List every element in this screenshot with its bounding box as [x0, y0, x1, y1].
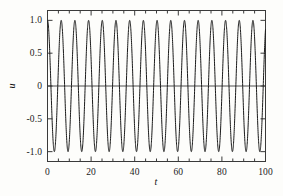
y-axis-title: u: [6, 84, 17, 89]
x-tick-label: 80: [217, 167, 227, 177]
x-tick-label: 60: [173, 167, 183, 177]
y-tick-label: -0.5: [18, 114, 42, 124]
y-tick-label: -1.0: [18, 147, 42, 157]
y-tick-label: 0.5: [18, 48, 42, 58]
figure-panel: 020406080100 -1.0-0.500.51.0 t u: [0, 0, 283, 196]
y-tick-label: 1.0: [18, 15, 42, 25]
x-tick-label: 40: [130, 167, 140, 177]
x-tick-label: 20: [86, 167, 96, 177]
chart-canvas: [0, 0, 283, 196]
x-tick-label: 100: [258, 167, 273, 177]
x-tick-label: 0: [45, 167, 50, 177]
x-axis-title: t: [155, 176, 158, 187]
y-tick-label: 0: [18, 81, 42, 91]
